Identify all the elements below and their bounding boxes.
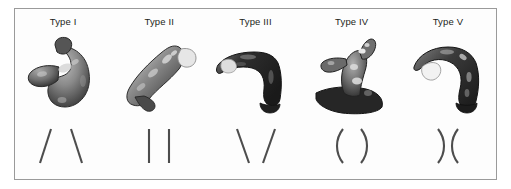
type-4-outward-curves-symbol <box>304 121 400 169</box>
type-label-5: Type V <box>433 16 463 27</box>
figure-frame-border: Type I <box>14 8 497 180</box>
figure-root: Type I <box>0 0 511 189</box>
type-1-diverging-lines-symbol <box>15 121 111 169</box>
aortic-arch-type-1-3d-model <box>15 31 111 119</box>
type-label-2: Type II <box>145 16 175 27</box>
aortic-arch-type-3-3d-model <box>208 31 304 119</box>
type-label-3: Type III <box>239 16 271 27</box>
type-column-3: Type III <box>207 9 303 179</box>
type-column-4: Type IV <box>304 9 400 179</box>
type-3-converging-lines-symbol <box>208 121 304 169</box>
type-columns-container: Type I <box>15 9 496 179</box>
aortic-arch-type-5-3d-model <box>400 31 496 119</box>
aortic-arch-type-4-3d-model <box>304 31 400 119</box>
type-column-1: Type I <box>15 9 111 179</box>
type-column-5: Type V <box>400 9 496 179</box>
type-label-1: Type I <box>50 16 77 27</box>
aortic-arch-type-2-3d-model <box>111 31 207 119</box>
type-2-parallel-lines-symbol <box>111 121 207 169</box>
type-column-2: Type II <box>111 9 207 179</box>
type-5-inward-curves-symbol <box>400 121 496 169</box>
type-label-4: Type IV <box>335 16 368 27</box>
